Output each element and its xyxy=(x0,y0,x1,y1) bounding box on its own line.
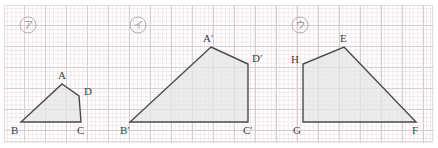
figure-b-polygon xyxy=(130,47,248,122)
figure-c-marker-label: ウ xyxy=(296,20,305,30)
vertex-label-G: G xyxy=(293,124,301,136)
vertex-label-D: D xyxy=(84,85,92,97)
vertex-label-H: H xyxy=(291,53,299,65)
vertex-label-B: B xyxy=(11,124,18,136)
vertex-label-C: C xyxy=(77,124,84,136)
vertex-label-C-prime: C′ xyxy=(243,124,253,136)
figure-a-marker-label: ア xyxy=(24,20,33,30)
figures-canvas: ADCBアA′D′C′B′イEFGHウ xyxy=(0,0,438,148)
figure-c-polygon xyxy=(303,47,416,122)
vertex-label-A: A xyxy=(58,69,66,81)
vertex-label-D-prime: D′ xyxy=(252,52,262,64)
figures-group: ADCBアA′D′C′B′イEFGHウ xyxy=(11,17,418,136)
vertex-label-F: F xyxy=(412,124,418,136)
vertex-label-B-prime: B′ xyxy=(120,124,130,136)
vertex-label-E: E xyxy=(340,32,347,44)
figure-b-marker-label: イ xyxy=(134,20,143,30)
figure-b: A′D′C′B′イ xyxy=(120,17,262,136)
figure-a-polygon xyxy=(21,84,81,122)
vertex-label-A-prime: A′ xyxy=(203,32,213,44)
figure-a: ADCBア xyxy=(11,17,92,136)
figure-c: EFGHウ xyxy=(291,17,418,136)
worksheet-page: ADCBアA′D′C′B′イEFGHウ xyxy=(0,0,438,148)
